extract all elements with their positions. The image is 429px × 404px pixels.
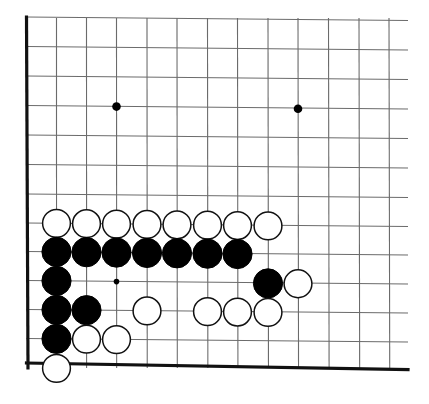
star-point [294,104,303,113]
white-stone[interactable] [73,210,101,238]
black-stone[interactable] [253,269,282,298]
white-stone[interactable] [194,211,222,239]
black-stone[interactable] [193,239,222,268]
star-point [112,102,121,111]
white-stone[interactable] [194,298,222,326]
black-stone[interactable] [132,238,161,267]
white-stone[interactable] [284,270,312,298]
grid-line-vertical [329,18,330,368]
black-stone[interactable] [162,239,191,268]
white-stone[interactable] [133,211,161,239]
star-point-small [114,279,120,285]
grid-line-vertical [389,18,390,368]
board-border-left [27,17,29,368]
black-stone[interactable] [42,324,71,353]
goban[interactable] [0,0,429,404]
black-stone[interactable] [102,238,131,267]
grid-line-vertical [359,18,360,368]
white-stone[interactable] [163,211,191,239]
white-stone[interactable] [224,212,252,240]
black-stone[interactable] [42,295,71,324]
white-stone[interactable] [43,209,71,237]
black-stone[interactable] [223,239,252,268]
black-stone[interactable] [72,296,101,325]
white-stone[interactable] [254,212,282,240]
black-stone[interactable] [72,238,101,267]
go-board-diagram [0,0,429,404]
black-stone[interactable] [42,237,71,266]
grid-line-vertical [298,18,299,368]
white-stone[interactable] [133,297,161,325]
go-board-svg[interactable] [0,0,429,404]
white-stone[interactable] [43,354,71,382]
white-stone[interactable] [73,325,101,353]
white-stone[interactable] [254,298,282,326]
white-stone[interactable] [103,210,131,238]
white-stone[interactable] [224,298,252,326]
black-stone[interactable] [42,266,71,295]
white-stone[interactable] [103,326,131,354]
